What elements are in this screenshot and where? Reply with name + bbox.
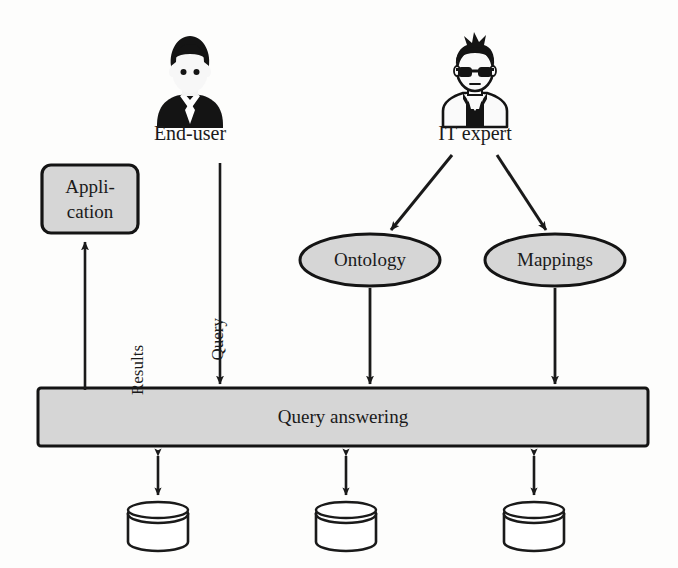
datasource-cylinder-3[interactable] xyxy=(504,502,564,551)
architecture-diagram: End-user IT expert Appli- cation Ontolog… xyxy=(0,0,678,568)
node-label-application-line1: Appli- xyxy=(42,174,138,199)
edge-it-expert-to-mappings xyxy=(497,155,546,230)
person-glasses-avatar-icon xyxy=(443,32,507,127)
person-suit-avatar-icon xyxy=(157,36,223,127)
datasource-cylinder-2[interactable] xyxy=(316,502,376,551)
node-label-ontology: Ontology xyxy=(300,249,440,271)
node-label-mappings: Mappings xyxy=(485,249,625,271)
edge-label-results: Results xyxy=(128,345,148,395)
actor-label-it-expert: IT expert xyxy=(400,122,550,145)
node-label-query-answering: Query answering xyxy=(38,406,648,428)
node-label-application: Appli- cation xyxy=(42,174,138,224)
node-label-application-line2: cation xyxy=(42,199,138,224)
edge-it-expert-to-ontology xyxy=(391,155,452,230)
edge-label-query: Query xyxy=(208,318,228,360)
actor-label-end-user: End-user xyxy=(115,122,265,145)
diagram-canvas xyxy=(0,0,678,568)
datasource-cylinder-1[interactable] xyxy=(128,502,188,551)
